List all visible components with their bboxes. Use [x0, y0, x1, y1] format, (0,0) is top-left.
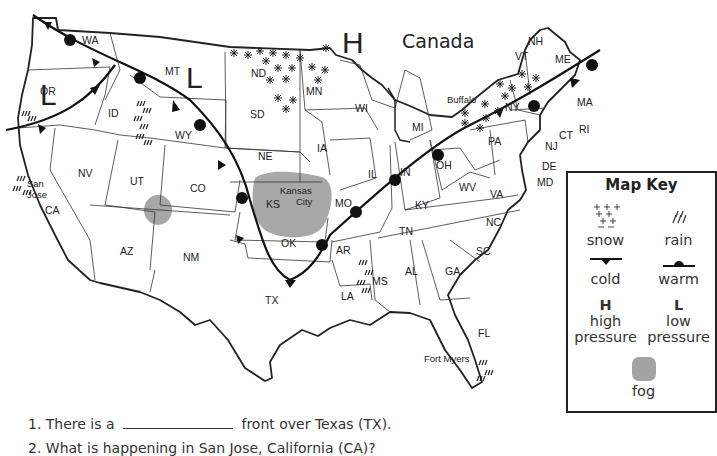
- question-2: 2. What is happening in San Jose, Califo…: [28, 440, 376, 456]
- warm-front-icon: [659, 256, 699, 268]
- question-1: 1. There is a front over Texas (TX).: [28, 416, 392, 432]
- svg-text:San: San: [27, 178, 44, 189]
- svg-text:RI: RI: [579, 123, 590, 135]
- svg-text:OK: OK: [281, 237, 296, 249]
- svg-text:CT: CT: [559, 129, 574, 141]
- key-fog-label: fog: [606, 383, 681, 399]
- svg-text:IA: IA: [317, 142, 327, 154]
- key-snow: snow: [568, 203, 643, 248]
- svg-text:PA: PA: [488, 135, 501, 147]
- svg-text:MA: MA: [577, 96, 593, 108]
- snow-icon: [586, 203, 626, 229]
- key-low-pressure: L low pressure: [641, 297, 716, 345]
- key-warm: warm: [641, 255, 716, 287]
- svg-text:UT: UT: [130, 175, 145, 187]
- svg-text:IL: IL: [368, 168, 377, 180]
- svg-text:AR: AR: [336, 244, 351, 256]
- question-2-text: What is happening in San Jose, Californi…: [46, 440, 376, 456]
- svg-text:MI: MI: [412, 121, 424, 133]
- svg-text:Jose: Jose: [27, 189, 47, 200]
- svg-text:H: H: [342, 26, 364, 59]
- key-high-label: high: [568, 313, 643, 329]
- map-key-title: Map Key: [568, 176, 715, 194]
- key-warm-label: warm: [641, 271, 716, 287]
- svg-text:Kansas: Kansas: [280, 185, 312, 196]
- key-rain-label: rain: [641, 232, 716, 248]
- svg-text:WV: WV: [459, 181, 476, 193]
- svg-text:Fort Myers: Fort Myers: [424, 353, 470, 364]
- svg-text:MS: MS: [372, 275, 388, 287]
- question-1-text-before: There is a: [46, 416, 115, 432]
- svg-text:VT: VT: [515, 50, 529, 62]
- key-fog: fog: [606, 357, 681, 399]
- high-pressure-symbol: H: [568, 297, 643, 313]
- svg-text:ME: ME: [555, 53, 571, 65]
- svg-text:MO: MO: [335, 197, 352, 209]
- country-label-canada: Canada: [402, 30, 474, 52]
- svg-text:WI: WI: [355, 102, 368, 114]
- svg-text:NY: NY: [505, 101, 520, 113]
- svg-text:CA: CA: [45, 204, 60, 216]
- svg-text:MD: MD: [537, 176, 554, 188]
- svg-text:LA: LA: [341, 290, 354, 302]
- svg-text:KS: KS: [266, 198, 280, 210]
- key-high-pressure: H high pressure: [568, 297, 643, 345]
- low-pressure-symbol: L: [641, 297, 716, 313]
- svg-text:TX: TX: [265, 294, 278, 306]
- key-snow-label: snow: [568, 232, 643, 248]
- key-rain: rain: [641, 203, 716, 248]
- key-high-label2: pressure: [568, 329, 643, 345]
- svg-text:VA: VA: [490, 188, 503, 200]
- key-cold-label: cold: [568, 271, 643, 287]
- svg-text:L: L: [40, 78, 57, 111]
- svg-text:AZ: AZ: [120, 245, 134, 257]
- key-low-label: low: [641, 313, 716, 329]
- svg-text:AL: AL: [405, 265, 418, 277]
- svg-text:L: L: [186, 61, 203, 94]
- svg-text:WY: WY: [175, 129, 192, 141]
- svg-text:ID: ID: [108, 107, 119, 119]
- fog-icon: [632, 357, 656, 381]
- svg-text:NC: NC: [486, 216, 502, 228]
- map-key: Map Key snow rain cold warm H high press…: [566, 171, 717, 413]
- svg-text:IN: IN: [400, 166, 411, 178]
- svg-text:CO: CO: [190, 182, 206, 194]
- svg-text:SD: SD: [250, 108, 265, 120]
- svg-text:TN: TN: [399, 225, 413, 237]
- svg-text:FL: FL: [478, 327, 490, 339]
- svg-text:City: City: [296, 196, 313, 207]
- cold-front-icon: [586, 256, 626, 268]
- svg-text:MT: MT: [165, 65, 181, 77]
- svg-text:ND: ND: [251, 67, 267, 79]
- svg-text:OH: OH: [436, 159, 452, 171]
- question-1-number: 1.: [28, 416, 41, 432]
- svg-text:SC: SC: [476, 245, 491, 257]
- svg-text:GA: GA: [445, 265, 460, 277]
- svg-text:MN: MN: [306, 85, 322, 97]
- key-cold: cold: [568, 255, 643, 287]
- warm-front-semicircles: [64, 34, 598, 251]
- svg-text:WA: WA: [82, 34, 99, 46]
- question-1-blank[interactable]: [123, 416, 233, 429]
- svg-text:NM: NM: [183, 251, 199, 263]
- question-1-text-after: front over Texas (TX).: [241, 416, 391, 432]
- svg-text:NJ: NJ: [545, 140, 558, 152]
- svg-text:KY: KY: [415, 199, 429, 211]
- weather-fronts: [6, 15, 600, 280]
- rain-icon: [659, 203, 699, 229]
- svg-text:Buffalo: Buffalo: [447, 94, 476, 105]
- svg-text:NV: NV: [78, 167, 93, 179]
- key-low-label2: pressure: [641, 329, 716, 345]
- question-2-number: 2.: [28, 440, 41, 456]
- svg-text:NH: NH: [528, 35, 543, 47]
- rain-symbols: [13, 101, 493, 381]
- svg-text:DE: DE: [542, 160, 557, 172]
- svg-text:NE: NE: [258, 150, 273, 162]
